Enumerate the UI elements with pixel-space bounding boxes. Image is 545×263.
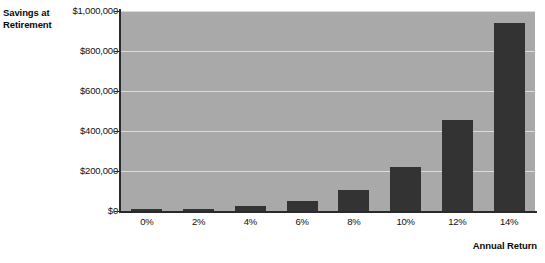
x-axis-tick-label: 10% xyxy=(380,216,432,227)
bar-series-group xyxy=(121,11,535,211)
y-axis-tick-mark xyxy=(114,51,121,52)
bar xyxy=(183,209,214,211)
bar xyxy=(494,23,525,211)
bar xyxy=(338,190,369,211)
y-axis-tick-mark xyxy=(114,131,121,132)
y-axis-tick-mark xyxy=(114,171,121,172)
x-axis-tick-label: 14% xyxy=(483,216,535,227)
bar xyxy=(131,209,162,211)
x-axis-tick-label-group: 0%2%4%6%8%10%12%14% xyxy=(121,216,535,232)
x-axis-tick-label: 0% xyxy=(121,216,173,227)
savings-at-retirement-bar-chart: Savings at Retirement $0$200,000$400,000… xyxy=(0,0,545,263)
y-axis-tick-mark xyxy=(114,11,121,12)
y-axis-tick-mark xyxy=(114,91,121,92)
y-axis-tick-label: $800,000 xyxy=(50,45,118,56)
x-axis-tick-label: 6% xyxy=(276,216,328,227)
y-axis-tick-label: $0 xyxy=(50,205,118,216)
x-axis-tick-label: 4% xyxy=(225,216,277,227)
bar xyxy=(235,206,266,211)
y-axis-tick-label: $600,000 xyxy=(50,85,118,96)
x-axis-title: Annual Return xyxy=(473,240,537,251)
x-axis-tick-label: 12% xyxy=(432,216,484,227)
bar xyxy=(390,167,421,211)
y-axis-tick-mark xyxy=(114,211,121,212)
bar xyxy=(287,201,318,211)
y-axis-tick-label: $400,000 xyxy=(50,125,118,136)
y-axis-title: Savings at Retirement xyxy=(3,7,57,31)
x-axis-tick-label: 2% xyxy=(173,216,225,227)
bar xyxy=(442,120,473,211)
x-axis-tick-label: 8% xyxy=(328,216,380,227)
y-axis-tick-label: $200,000 xyxy=(50,165,118,176)
x-axis-line xyxy=(119,211,537,213)
y-axis-tick-label: $1,000,000 xyxy=(50,5,118,16)
y-axis-tick-label-group: $0$200,000$400,000$600,000$800,000$1,000… xyxy=(50,0,118,220)
